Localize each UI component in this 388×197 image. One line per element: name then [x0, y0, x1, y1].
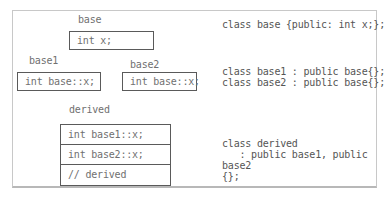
base1-layout-box: int base::x;	[17, 72, 101, 91]
base-layout-box: int x;	[69, 31, 154, 50]
base-title: base	[78, 14, 101, 25]
base2-layout-box: int base::x;	[122, 72, 197, 91]
base2-title: base2	[130, 59, 159, 70]
code-base-decl: class base {public: int x;};	[222, 19, 385, 30]
code-derived-line-3: base2	[222, 160, 251, 171]
derived-row-base2: int base2::x;	[61, 145, 170, 165]
base-member: int x;	[77, 35, 112, 46]
base2-member: int base::x;	[130, 76, 200, 87]
derived-row-own: // derived	[61, 165, 170, 185]
code-derived-line-4: {};	[222, 171, 239, 182]
code-derived-line-2: : public base1, public	[222, 149, 368, 160]
base1-member: int base::x;	[25, 76, 95, 87]
code-base1-decl: class base1 : public base{};	[222, 66, 385, 77]
base1-title: base1	[29, 55, 58, 66]
code-derived-line-1: class derived	[222, 138, 298, 149]
derived-title: derived	[69, 104, 110, 115]
code-base2-decl: class base2 : public base{};	[222, 77, 385, 88]
derived-row-base1: int base1::x;	[61, 125, 170, 145]
derived-layout-box: int base1::x; int base2::x; // derived	[60, 124, 171, 186]
